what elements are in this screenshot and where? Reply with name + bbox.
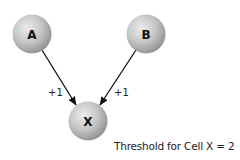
node-b: B: [127, 15, 166, 54]
node-x-label: X: [83, 115, 93, 129]
edge-label-b-x: +1: [114, 87, 129, 98]
node-b-label: B: [141, 28, 150, 42]
diagram-canvas: +1 +1 A B X Threshold for Cell X = 2: [0, 0, 240, 160]
threshold-caption: Threshold for Cell X = 2: [114, 140, 234, 152]
node-a: A: [13, 15, 52, 54]
node-a-label: A: [27, 28, 37, 42]
edge-label-a-x: +1: [48, 87, 63, 98]
node-x: X: [69, 102, 108, 141]
diagram-svg: +1 +1 A B X: [0, 0, 240, 160]
